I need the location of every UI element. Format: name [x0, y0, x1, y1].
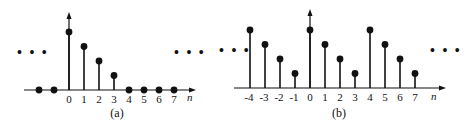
- stem-marker: [96, 58, 103, 65]
- stems-a: [36, 29, 178, 94]
- tick-label: 2: [337, 91, 343, 103]
- stem-marker: [36, 87, 43, 94]
- figure: 01234567 n • • • • • • (a) -4-3-2-101234…: [0, 0, 472, 127]
- tick-label: 1: [81, 93, 87, 105]
- ellipsis-left-a: • • •: [17, 45, 49, 60]
- ellipsis-right-a: • • •: [174, 45, 206, 60]
- stem-marker: [337, 56, 344, 63]
- x-axis-label-a: n: [187, 91, 193, 103]
- stem-marker: [277, 56, 284, 63]
- tick-labels-a: 01234567: [66, 93, 177, 105]
- ellipsis-right-b: • • •: [430, 43, 462, 58]
- tick-label: 7: [171, 93, 177, 105]
- tick-label: 5: [141, 93, 147, 105]
- tick-label: 0: [66, 93, 72, 105]
- caption-b: (b): [332, 106, 346, 120]
- stem-marker: [292, 70, 299, 77]
- x-axis-label-b: n: [431, 90, 437, 102]
- tick-label: 2: [96, 93, 102, 105]
- stem-marker: [352, 70, 359, 77]
- stem-marker: [412, 70, 419, 77]
- stem-marker: [247, 27, 254, 34]
- stem-marker: [51, 87, 58, 94]
- y-axis-arrow-icon: [308, 9, 313, 16]
- tick-label: 5: [382, 91, 388, 103]
- tick-label: 7: [412, 91, 418, 103]
- stem-plot-b: -4-3-2-101234567 n • • • • • • (b): [219, 9, 462, 120]
- tick-label: 3: [352, 91, 358, 103]
- tick-label: 4: [367, 91, 373, 103]
- tick-label: 1: [322, 91, 328, 103]
- stem-marker: [367, 27, 374, 34]
- stem-marker: [111, 72, 118, 79]
- tick-label: -1: [289, 91, 298, 103]
- tick-label: 4: [126, 93, 132, 105]
- tick-label: -3: [259, 91, 269, 103]
- tick-label: 0: [307, 91, 313, 103]
- x-axis-arrow-icon: [439, 86, 446, 91]
- tick-label: 6: [156, 93, 162, 105]
- stem-marker: [382, 41, 389, 48]
- y-axis-arrow-icon: [67, 12, 72, 19]
- ellipsis-left-b: • • •: [219, 43, 251, 58]
- stem-marker: [262, 41, 269, 48]
- tick-label: -4: [244, 91, 254, 103]
- tick-label: 6: [397, 91, 403, 103]
- stem-plot-a: 01234567 n • • • • • • (a): [17, 12, 206, 120]
- stem-marker: [397, 56, 404, 63]
- stem-marker: [81, 43, 88, 50]
- stems-b: [247, 27, 419, 88]
- stem-marker: [307, 27, 314, 34]
- tick-label: -2: [274, 91, 283, 103]
- tick-labels-b: -4-3-2-101234567: [244, 91, 418, 103]
- stem-marker: [66, 29, 73, 36]
- stem-marker: [322, 41, 329, 48]
- caption-a: (a): [110, 106, 123, 120]
- tick-label: 3: [111, 93, 117, 105]
